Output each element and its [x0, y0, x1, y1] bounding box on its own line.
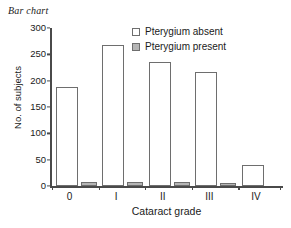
y-axis-line	[50, 28, 52, 186]
chart-legend: Pterygium absentPterygium present	[132, 24, 226, 54]
x-tick-mark	[99, 186, 100, 190]
x-tick-label: III	[205, 192, 213, 202]
y-tick-label: 250	[6, 50, 46, 60]
x-tick-mark	[192, 186, 193, 190]
x-tick-label: 0	[67, 192, 73, 202]
y-tick-mark	[47, 54, 51, 55]
bar-present-II	[174, 182, 190, 186]
legend-label: Pterygium present	[145, 42, 226, 52]
chart-title: Bar chart	[8, 5, 48, 16]
y-tick-mark	[47, 80, 51, 81]
x-tick-mark	[52, 186, 53, 190]
y-tick-mark	[47, 185, 51, 186]
bar-absent-0	[56, 87, 78, 186]
bar-present-I	[127, 182, 143, 186]
x-axis-label: Cataract grade	[50, 205, 283, 217]
legend-item: Pterygium present	[132, 39, 226, 54]
y-tick-label: 0	[6, 181, 46, 191]
bar-absent-III	[195, 72, 217, 186]
x-tick-label: IV	[251, 192, 260, 202]
y-tick-mark	[47, 159, 51, 160]
x-tick-label: I	[115, 192, 118, 202]
y-tick-label: 150	[6, 102, 46, 112]
bar-absent-II	[149, 62, 171, 186]
legend-label: Pterygium absent	[145, 27, 223, 37]
x-tick-label: II	[160, 192, 166, 202]
y-tick-label: 200	[6, 76, 46, 86]
y-tick-label: 50	[6, 155, 46, 165]
bar-present-0	[81, 182, 97, 186]
legend-swatch-icon	[132, 28, 140, 36]
legend-swatch-icon	[132, 43, 140, 51]
x-tick-mark	[145, 186, 146, 190]
x-tick-mark	[238, 186, 239, 190]
bar-chart-figure: Bar chart No. of subjects 05010015020025…	[0, 0, 291, 228]
bar-present-III	[220, 183, 236, 186]
y-tick-mark	[47, 27, 51, 28]
bar-absent-IV	[242, 165, 264, 186]
y-tick-label: 100	[6, 129, 46, 139]
bar-absent-I	[102, 45, 124, 186]
y-tick-mark	[47, 106, 51, 107]
x-axis-line	[50, 186, 283, 188]
x-tick-mark	[280, 186, 281, 190]
legend-item: Pterygium absent	[132, 24, 226, 39]
y-tick-label: 300	[6, 23, 46, 33]
y-tick-mark	[47, 133, 51, 134]
